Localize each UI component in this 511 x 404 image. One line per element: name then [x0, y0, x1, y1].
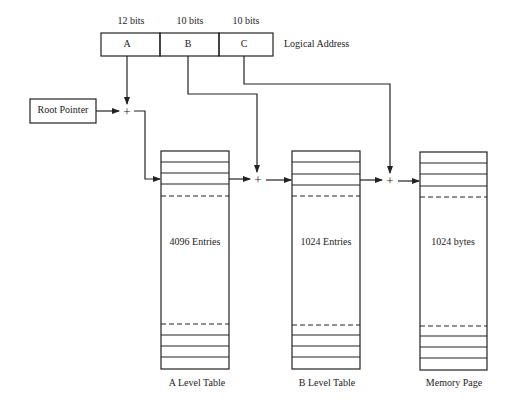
b-level-table [292, 151, 360, 369]
a-table-content: 4096 Entries [170, 236, 221, 247]
bits-label-a: 12 bits [118, 15, 145, 26]
memory-page-title: Memory Page [426, 377, 482, 388]
b-table-title: B Level Table [299, 377, 355, 388]
memory-page-content: 1024 bytes [431, 236, 475, 247]
a-level-table [161, 151, 229, 369]
bits-label-b: 10 bits [177, 15, 204, 26]
a-table-title: A Level Table [169, 377, 225, 388]
b-table-content: 1024 Entries [301, 236, 352, 247]
memory-page-table [420, 152, 487, 370]
field-name-b: B [185, 38, 192, 49]
arrow-c-to-adder3 [244, 56, 390, 173]
root-pointer-label: Root Pointer [38, 104, 89, 115]
adder-symbol-2: + [254, 172, 261, 188]
arrow-adder1-to-a-table [134, 111, 160, 179]
field-name-c: C [241, 38, 248, 49]
logical-address-label: Logical Address [284, 38, 349, 49]
field-name-a: A [123, 38, 130, 49]
adder-symbol-3: + [386, 173, 393, 189]
diagram-canvas [0, 0, 511, 404]
bits-label-c: 10 bits [233, 15, 260, 26]
arrow-b-to-adder2 [188, 56, 257, 172]
adder-symbol-1: + [123, 104, 130, 120]
